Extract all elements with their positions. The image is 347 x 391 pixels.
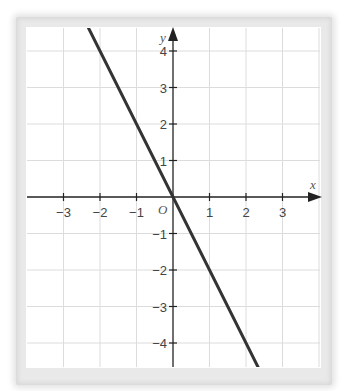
y-tick-label: 4 xyxy=(160,44,167,59)
x-tick-label: 3 xyxy=(279,205,286,220)
x-tick-label: −3 xyxy=(56,205,71,220)
x-axis-arrow-icon xyxy=(308,192,322,202)
y-tick-label: −4 xyxy=(152,336,167,351)
x-tick-label: 2 xyxy=(242,205,249,220)
origin-label: O xyxy=(158,202,168,217)
y-tick-label: −2 xyxy=(152,263,167,278)
coordinate-plane: −3−2−1123−4−3−2−11234 x y O xyxy=(0,0,347,391)
y-axis-arrow-icon xyxy=(168,27,178,41)
y-axis-label: y xyxy=(158,30,166,45)
y-tick-label: 3 xyxy=(160,81,167,96)
y-tick-label: 1 xyxy=(160,154,167,169)
y-tick-label: −3 xyxy=(152,300,167,315)
x-tick-label: 1 xyxy=(206,205,213,220)
x-tick-label: −1 xyxy=(129,205,144,220)
y-tick-label: 2 xyxy=(160,117,167,132)
x-axis-label: x xyxy=(309,177,316,192)
x-tick-label: −2 xyxy=(93,205,108,220)
y-tick-label: −1 xyxy=(152,227,167,242)
